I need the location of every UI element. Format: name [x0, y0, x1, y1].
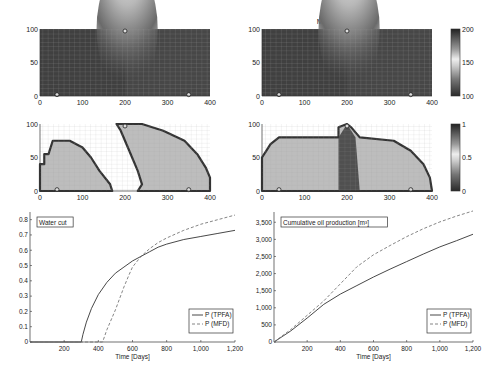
y-tick-label: 0.4 — [19, 277, 28, 284]
y-tick-label: 0 — [268, 338, 272, 345]
chart-title: Water cut — [39, 219, 67, 226]
legend: P (TPFA)P (MFD) — [189, 309, 233, 333]
y-tick-label: 0 — [34, 188, 38, 195]
y-tick-label: 50 — [252, 154, 260, 161]
x-tick-label: 400 — [426, 99, 438, 106]
y-tick-label: 0.7 — [19, 231, 28, 238]
panel-saturation_mimetic: 010020030040005010000.51 — [248, 121, 472, 202]
legend-entry: P (TPFA) — [205, 311, 232, 319]
y-tick-label: 0 — [256, 188, 260, 195]
colorbar-tick-label: 200 — [462, 26, 474, 33]
well-marker-icon — [345, 29, 349, 33]
colorbar: 00.51 — [451, 121, 472, 195]
x-tick-label: 300 — [162, 194, 174, 201]
x-tick-label: 100 — [299, 194, 311, 201]
well-marker-icon — [345, 124, 349, 128]
x-tick-label: 400 — [426, 194, 438, 201]
x-tick-label: 0 — [38, 99, 42, 106]
x-tick-label: 200 — [119, 194, 131, 201]
x-tick-label: 300 — [384, 99, 396, 106]
x-tick-label: 1,000 — [193, 345, 210, 352]
panel-pressure_mimetic: Mimetic: 500 days01002003004000501001001… — [248, 0, 473, 106]
x-tick-label: 200 — [59, 345, 70, 352]
x-tick-label: 400 — [204, 194, 216, 201]
y-tick-label: 0 — [34, 93, 38, 100]
x-tick-label: 300 — [162, 99, 174, 106]
x-tick-label: 400 — [93, 345, 104, 352]
colorbar-tick-label: 0.5 — [462, 154, 472, 161]
x-tick-label: 200 — [341, 194, 353, 201]
y-tick-label: 0 — [256, 93, 260, 100]
panel-saturation_tpfa: 0100200300400050100 — [26, 121, 216, 202]
x-tick-label: 100 — [299, 99, 311, 106]
colorbar-tick-label: 1 — [462, 121, 466, 128]
x-axis-label: Time [Days] — [115, 353, 150, 361]
x-tick-label: 800 — [161, 345, 172, 352]
x-tick-label: 0 — [260, 99, 264, 106]
y-tick-label: 2,000 — [256, 270, 273, 277]
y-tick-label: 1,000 — [256, 304, 273, 311]
y-tick-label: 0.2 — [19, 308, 28, 315]
chart-title: Cumulative oil production [m³] — [283, 219, 369, 227]
legend-entry: P (MFD) — [205, 320, 229, 328]
x-tick-label: 300 — [384, 194, 396, 201]
y-tick-label: 3,000 — [256, 236, 273, 243]
chart-title-box: Cumulative oil production [m³] — [281, 217, 388, 227]
well-marker-icon — [123, 29, 127, 33]
y-tick-label: 500 — [261, 321, 272, 328]
legend-entry: P (MFD) — [443, 320, 467, 328]
x-tick-label: 100 — [77, 99, 89, 106]
heatmap-field — [262, 124, 432, 192]
y-tick-label: 0 — [24, 338, 28, 345]
x-tick-label: 200 — [341, 99, 353, 106]
figure: TPFA: 500 days0100200300400050100Mimetic… — [0, 0, 493, 376]
x-tick-label: 200 — [302, 345, 313, 352]
panel-pressure_tpfa: TPFA: 500 days0100200300400050100 — [26, 0, 216, 106]
x-tick-label: 1,200 — [465, 345, 482, 352]
legend: P (TPFA)P (MFD) — [427, 309, 471, 333]
x-tick-label: 100 — [77, 194, 89, 201]
x-tick-label: 1,000 — [432, 345, 449, 352]
y-tick-label: 2,500 — [256, 253, 273, 260]
x-tick-label: 0 — [38, 194, 42, 201]
y-tick-label: 50 — [30, 59, 38, 66]
panel-cumulative_oil: 05001,0001,5002,0002,5003,0003,500200400… — [256, 211, 482, 361]
y-tick-label: 0.8 — [19, 216, 28, 223]
x-tick-label: 600 — [368, 345, 379, 352]
x-tick-label: 1,200 — [227, 345, 244, 352]
y-tick-label: 100 — [248, 26, 260, 33]
y-tick-label: 100 — [26, 121, 38, 128]
y-tick-label: 0.6 — [19, 247, 28, 254]
x-tick-label: 600 — [127, 345, 138, 352]
y-tick-label: 0.5 — [19, 262, 28, 269]
x-tick-label: 0 — [260, 194, 264, 201]
y-tick-label: 50 — [252, 59, 260, 66]
x-tick-label: 400 — [335, 345, 346, 352]
panel-water_cut: 00.10.20.30.40.50.60.70.82004006008001,0… — [19, 212, 244, 361]
legend-entry: P (TPFA) — [443, 311, 470, 319]
colorbar-tick-label: 0 — [462, 188, 466, 195]
heatmap-field — [40, 0, 210, 97]
y-tick-label: 0.1 — [19, 323, 28, 330]
x-tick-label: 200 — [119, 99, 131, 106]
y-tick-label: 100 — [26, 26, 38, 33]
colorbar: 100150200 — [451, 26, 474, 100]
x-tick-label: 400 — [204, 99, 216, 106]
colorbar-tick-label: 150 — [462, 59, 474, 66]
y-tick-label: 50 — [30, 154, 38, 161]
y-tick-label: 3,500 — [256, 219, 273, 226]
figure-canvas: TPFA: 500 days0100200300400050100Mimetic… — [0, 0, 493, 376]
x-tick-label: 800 — [401, 345, 412, 352]
chart-title-box: Water cut — [37, 217, 73, 227]
heatmap-field — [262, 0, 432, 97]
x-axis-label: Time [Days] — [356, 353, 391, 361]
heatmap-field — [40, 124, 210, 192]
y-tick-label: 1,500 — [256, 287, 273, 294]
well-marker-icon — [123, 124, 127, 128]
colorbar-tick-label: 100 — [462, 93, 474, 100]
y-tick-label: 100 — [248, 121, 260, 128]
y-tick-label: 0.3 — [19, 292, 28, 299]
